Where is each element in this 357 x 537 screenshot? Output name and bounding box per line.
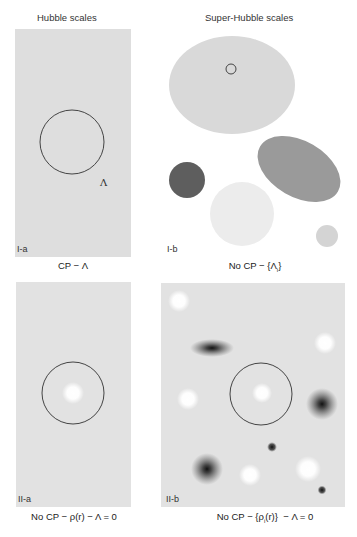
panel-I-a [15,29,131,257]
elongated-overdensity-blob [190,339,234,357]
caption-II-b: No CP − {ρi(r)} − Λ = 0 [195,511,335,524]
panel-label-I-b: I-b [167,244,178,254]
caption-I-b-suffix: } [278,260,281,271]
panel-label-II-a: II-a [18,494,31,504]
small-light-region [316,225,338,247]
caption-I-b: No CP − {Λi} [200,260,310,273]
dark-circular-region [169,162,205,198]
panel-II-a [16,282,131,507]
panel-label-II-b: II-b [166,494,179,504]
void-blob [168,290,190,312]
small-overdensity-dot [267,442,277,452]
panel-II-b [161,283,345,507]
central-void-blob [252,383,272,403]
large-gray-region [169,36,295,134]
light-circular-region [210,182,274,246]
caption-II-b-suffix: (r)} − Λ = 0 [265,511,313,522]
central-void-blob [62,382,84,404]
overdensity-blob [191,453,223,485]
void-blob [295,456,321,482]
void-blob [314,332,336,354]
caption-II-a: No CP − ρ(r) − Λ = 0 [10,511,138,522]
overdensity-blob [306,388,338,420]
void-blob [239,464,261,486]
caption-I-b-prefix: No CP − {Λ [229,260,277,271]
caption-II-b-prefix: No CP − {ρ [217,511,264,522]
panel-I-b [169,36,352,247]
caption-I-a: CP − Λ [15,260,131,271]
panel-I-a-background [15,29,131,257]
void-blob [177,388,199,410]
panel-label-I-a: I-a [17,244,28,254]
lambda-annotation: Λ [100,177,107,188]
small-overdensity-dot [318,486,327,495]
